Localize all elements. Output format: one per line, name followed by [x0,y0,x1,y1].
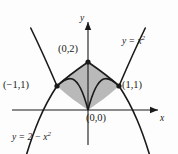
point-marker-neg1-1 [54,83,59,88]
curve-down-exponent: 2 [48,130,52,138]
curve-label-y-equals-x-squared: y = x2 [122,35,145,47]
point-label-0-0: (0,0) [86,113,106,124]
point-label-0-2: (0,2) [58,44,78,55]
point-label-neg1-1: (−1,1) [3,80,29,91]
y-axis-label: y [80,14,84,24]
curve-up-exponent: 2 [142,34,146,42]
math-figure: (0,2) (−1,1) (1,1) (0,0) y = x2 y = 2 − … [0,0,178,154]
curve-label-y-equals-2-minus-x-squared: y = 2 − x2 [12,131,51,143]
point-marker-0-2 [85,59,90,64]
curve-down-text: y = 2 − x [12,132,48,142]
curve-up-text: y = x [122,36,142,46]
x-axis-label: x [160,114,164,124]
point-marker-1-1 [116,83,121,88]
point-label-1-1: (1,1) [122,80,142,91]
